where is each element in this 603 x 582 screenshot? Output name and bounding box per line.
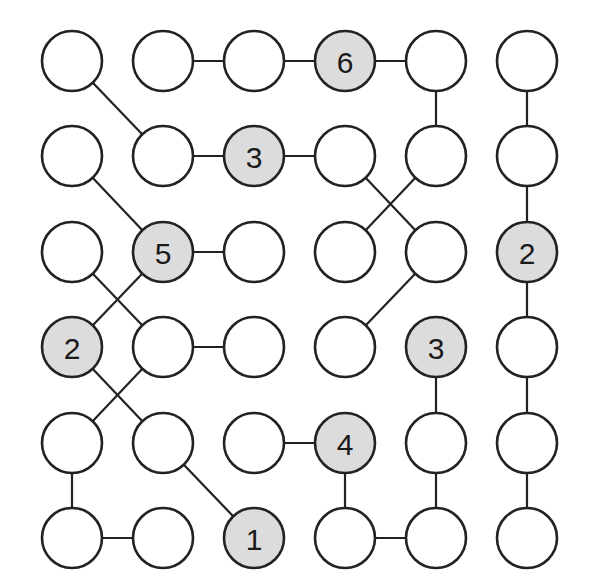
empty-node[interactable] [133,413,193,473]
node-number: 2 [64,332,81,365]
empty-node[interactable] [133,317,193,377]
given-number-node[interactable]: 3 [224,126,284,186]
node-circle[interactable] [224,31,284,91]
node-circle[interactable] [497,508,557,568]
empty-node[interactable] [224,317,284,377]
node-circle[interactable] [315,222,375,282]
empty-node[interactable] [224,413,284,473]
node-circle[interactable] [133,31,193,91]
given-number-node[interactable]: 2 [497,222,557,282]
node-circle[interactable] [42,508,102,568]
node-circle[interactable] [133,508,193,568]
node-circle[interactable] [315,317,375,377]
empty-node[interactable] [42,31,102,91]
given-number-node[interactable]: 5 [133,222,193,282]
node-circle[interactable] [224,222,284,282]
node-circle[interactable] [406,413,466,473]
node-circle[interactable] [315,508,375,568]
node-circle[interactable] [406,508,466,568]
empty-node[interactable] [315,126,375,186]
given-number-node[interactable]: 2 [42,317,102,377]
empty-node[interactable] [42,222,102,282]
node-circle[interactable] [406,31,466,91]
empty-node[interactable] [133,508,193,568]
empty-node[interactable] [497,317,557,377]
puzzle-board: 63522341 [0,0,603,582]
node-circle[interactable] [133,317,193,377]
node-circle[interactable] [315,126,375,186]
edges-layer [72,61,527,538]
empty-node[interactable] [406,413,466,473]
empty-node[interactable] [133,126,193,186]
node-circle[interactable] [42,413,102,473]
given-number-node[interactable]: 4 [315,413,375,473]
node-number: 4 [337,428,354,461]
node-number: 5 [155,237,172,270]
empty-node[interactable] [315,317,375,377]
node-number: 3 [428,332,445,365]
empty-node[interactable] [315,222,375,282]
empty-node[interactable] [406,126,466,186]
empty-node[interactable] [42,413,102,473]
node-number: 1 [246,523,263,556]
empty-node[interactable] [497,126,557,186]
node-number: 6 [337,46,354,79]
node-circle[interactable] [497,126,557,186]
node-circle[interactable] [497,31,557,91]
empty-node[interactable] [406,31,466,91]
empty-node[interactable] [406,222,466,282]
node-circle[interactable] [224,317,284,377]
node-circle[interactable] [42,126,102,186]
node-number: 2 [519,237,536,270]
node-number: 3 [246,141,263,174]
node-circle[interactable] [42,222,102,282]
empty-node[interactable] [406,508,466,568]
empty-node[interactable] [497,413,557,473]
node-circle[interactable] [497,413,557,473]
node-circle[interactable] [133,413,193,473]
node-circle[interactable] [133,126,193,186]
empty-node[interactable] [42,126,102,186]
empty-node[interactable] [497,508,557,568]
given-number-node[interactable]: 3 [406,317,466,377]
empty-node[interactable] [42,508,102,568]
empty-node[interactable] [315,508,375,568]
given-number-node[interactable]: 1 [224,508,284,568]
node-circle[interactable] [42,31,102,91]
empty-node[interactable] [133,31,193,91]
node-circle[interactable] [224,413,284,473]
node-circle[interactable] [497,317,557,377]
empty-node[interactable] [224,222,284,282]
node-circle[interactable] [406,222,466,282]
node-circle[interactable] [406,126,466,186]
given-number-node[interactable]: 6 [315,31,375,91]
empty-node[interactable] [224,31,284,91]
empty-node[interactable] [497,31,557,91]
